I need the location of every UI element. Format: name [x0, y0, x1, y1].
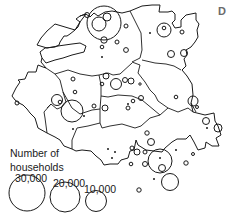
symbol-circle: [111, 79, 122, 90]
symbol-circle: [188, 96, 198, 106]
symbol-dot: [149, 32, 151, 34]
symbol-dot: [206, 127, 208, 129]
symbol-circle: [123, 78, 128, 83]
symbol-circle: [137, 188, 141, 192]
symbol-circle: [180, 30, 184, 34]
symbol-circle: [203, 118, 210, 125]
region-border: [102, 108, 193, 128]
symbol-circle: [129, 162, 133, 166]
symbol-circle: [143, 162, 148, 167]
symbol-circle: [103, 13, 111, 21]
symbol-dot: [153, 178, 155, 180]
symbol-circle: [92, 104, 96, 108]
symbol-circle: [192, 153, 195, 156]
symbol-circle: [71, 77, 75, 81]
symbol-circle: [100, 45, 104, 49]
symbol-circle: [145, 131, 149, 135]
region-border: [142, 60, 181, 70]
symbol-circle: [115, 40, 119, 44]
symbol-circle: [148, 149, 172, 173]
symbol-circle: [184, 161, 188, 165]
symbol-circle: [168, 51, 175, 58]
symbol-dot: [107, 148, 109, 150]
region-border: [130, 11, 142, 62]
region-border: [132, 62, 168, 108]
symbol-circle: [124, 48, 129, 53]
symbol-circle: [102, 105, 108, 111]
legend-label-20000: 20,000: [53, 177, 85, 189]
symbol-circle: [61, 100, 83, 122]
symbol-dot: [111, 157, 113, 159]
symbol-circle: [73, 90, 77, 94]
symbol-circle: [174, 95, 178, 99]
legend-label-10000: 10,000: [84, 183, 116, 195]
household-map: [0, 0, 236, 218]
symbol-dot: [83, 115, 85, 117]
region-border: [55, 70, 99, 76]
symbol-dot: [72, 128, 74, 130]
legend-title-line1: Number of: [10, 146, 64, 160]
symbol-circle: [130, 146, 134, 150]
symbol-circle: [128, 78, 134, 84]
symbol-circle: [162, 174, 179, 191]
symbol-circle: [162, 26, 166, 30]
region-border: [72, 123, 100, 149]
symbol-dot: [159, 157, 161, 159]
symbol-circle: [196, 106, 199, 109]
symbol-circle: [124, 24, 128, 28]
symbol-circle: [126, 106, 130, 110]
map-outline: [12, 5, 221, 165]
legend-title: Number of households: [10, 146, 64, 174]
region-border: [44, 104, 51, 133]
symbol-circle: [159, 165, 166, 172]
region-border: [63, 92, 100, 114]
symbol-circle: [148, 139, 155, 146]
symbol-dot: [101, 56, 103, 58]
region-border: [101, 95, 160, 115]
symbol-circle: [134, 149, 140, 155]
symbol-circle: [143, 150, 147, 154]
symbol-circle: [139, 83, 141, 85]
symbol-dot: [127, 103, 129, 105]
symbol-dot: [114, 151, 116, 153]
legend-label-30000: 30,000: [15, 172, 47, 184]
symbol-circle: [131, 99, 135, 103]
symbol-dot: [175, 149, 177, 151]
panel-label: D: [218, 5, 226, 17]
